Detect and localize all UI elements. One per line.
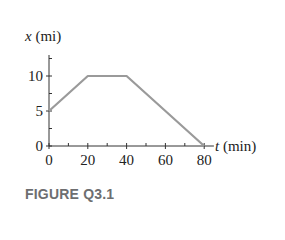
ticks (46, 59, 204, 150)
x-tick-label: 60 (158, 152, 173, 168)
y-tick-label: 10 (28, 68, 43, 84)
data-series (49, 76, 204, 146)
figure-caption: FIGURE Q3.1 (25, 186, 114, 202)
y-axis-label: x (mi) (24, 28, 61, 45)
position-line (49, 76, 204, 146)
x-tick-label: 0 (45, 152, 53, 168)
labels: 0204060800510x (mi)t (min) (24, 28, 256, 168)
x-tick-label: 40 (119, 152, 134, 168)
x-tick-label: 20 (80, 152, 95, 168)
y-tick-label: 0 (36, 138, 44, 154)
x-tick-label: 80 (197, 152, 212, 168)
y-tick-label: 5 (36, 103, 44, 119)
x-axis-label: t (min) (215, 138, 256, 155)
